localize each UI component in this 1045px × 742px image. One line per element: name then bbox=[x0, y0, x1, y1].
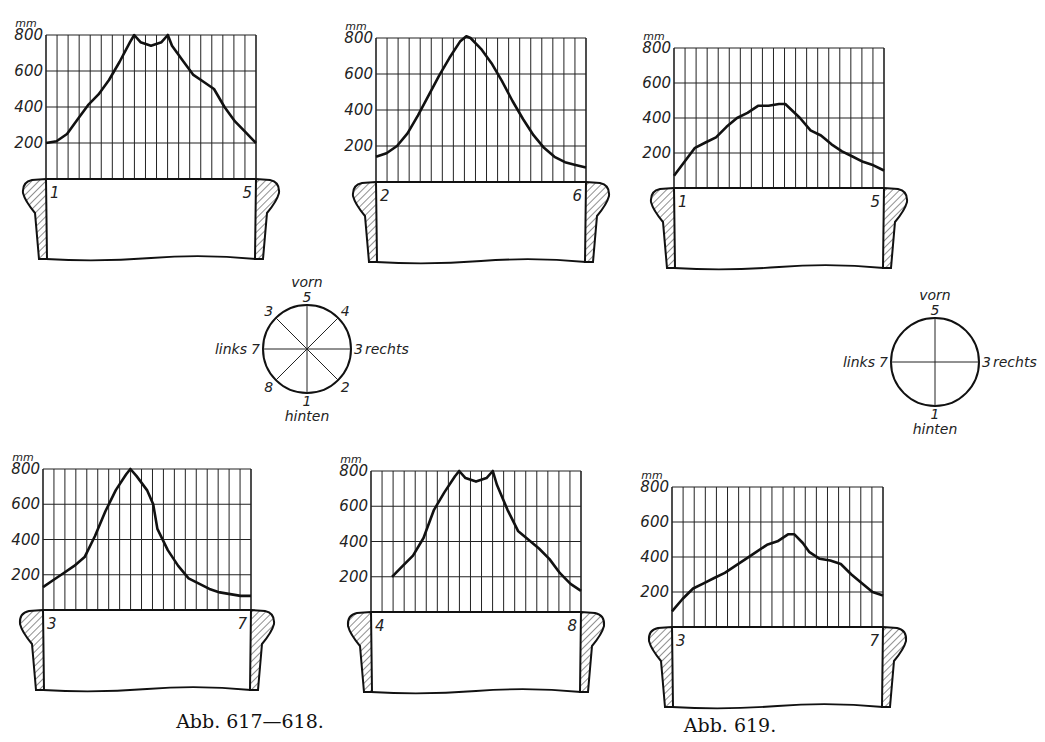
y-tick-label: 400 bbox=[11, 531, 40, 549]
point-number: 7 bbox=[251, 341, 260, 357]
charts-layer: 200400600800mm15200400600800mm2620040060… bbox=[11, 17, 907, 708]
orientation-diagram-1: 543rechts2187links3vornhinten bbox=[215, 274, 409, 424]
left-point-label: 3 bbox=[676, 632, 686, 650]
profile-line bbox=[46, 35, 256, 143]
y-tick-label: 200 bbox=[14, 134, 43, 152]
point-number: 5 bbox=[303, 289, 312, 305]
right-point-label: 5 bbox=[870, 193, 880, 211]
right-label: rechts bbox=[993, 354, 1037, 370]
y-tick-label: 400 bbox=[14, 98, 43, 116]
unit-label: mm bbox=[15, 17, 36, 30]
y-tick-label: 600 bbox=[344, 65, 373, 83]
profile-line bbox=[43, 469, 251, 596]
right-rail-section bbox=[585, 182, 609, 262]
right-rail-section bbox=[255, 179, 279, 259]
y-tick-label: 600 bbox=[11, 495, 40, 513]
right-rail-section bbox=[250, 610, 274, 690]
right-point-label: 5 bbox=[242, 184, 252, 202]
rail-profile-chart-5: 200400600800mm48 bbox=[339, 453, 604, 693]
unit-label: mm bbox=[340, 453, 361, 466]
y-tick-label: 200 bbox=[642, 144, 671, 162]
point-number: 2 bbox=[341, 379, 350, 395]
back-label: hinten bbox=[913, 421, 958, 437]
point-number: 4 bbox=[341, 303, 350, 319]
break-line bbox=[376, 259, 586, 263]
right-label: rechts bbox=[365, 341, 409, 357]
point-number: 3 bbox=[982, 354, 991, 370]
left-point-label: 4 bbox=[375, 617, 385, 635]
back-label: hinten bbox=[285, 408, 330, 424]
left-label: links bbox=[215, 341, 247, 357]
right-point-label: 7 bbox=[237, 615, 247, 633]
break-line bbox=[672, 704, 883, 708]
figure-caption: Abb. 619. bbox=[683, 714, 776, 736]
figure-canvas: 200400600800mm15200400600800mm2620040060… bbox=[0, 0, 1045, 742]
y-tick-label: 200 bbox=[344, 137, 373, 155]
front-label: vorn bbox=[291, 274, 322, 290]
left-rail-section bbox=[23, 179, 47, 259]
y-tick-label: 400 bbox=[339, 533, 368, 551]
profile-line bbox=[392, 471, 581, 591]
front-label: vorn bbox=[919, 287, 950, 303]
profile-line bbox=[376, 36, 586, 167]
y-tick-label: 200 bbox=[640, 583, 669, 601]
left-rail-section bbox=[651, 188, 675, 268]
point-number: 5 bbox=[931, 302, 940, 318]
left-rail-section bbox=[20, 610, 44, 690]
rail-profile-chart-3: 200400600800mm15 bbox=[642, 30, 907, 269]
point-number: 1 bbox=[931, 406, 940, 422]
left-point-label: 1 bbox=[678, 193, 688, 211]
y-tick-label: 600 bbox=[642, 74, 671, 92]
left-point-label: 3 bbox=[47, 615, 57, 633]
unit-label: mm bbox=[345, 20, 366, 33]
rail-profile-chart-1: 200400600800mm15 bbox=[14, 17, 279, 260]
break-line bbox=[371, 689, 581, 693]
point-number: 8 bbox=[264, 379, 273, 395]
break-line bbox=[674, 265, 884, 269]
y-tick-label: 400 bbox=[640, 548, 669, 566]
break-line bbox=[43, 687, 251, 691]
point-number: 7 bbox=[879, 354, 888, 370]
point-number: 1 bbox=[303, 393, 312, 409]
left-label: links bbox=[843, 354, 875, 370]
point-number: 3 bbox=[354, 341, 363, 357]
y-tick-label: 200 bbox=[339, 568, 368, 586]
point-number: 3 bbox=[264, 303, 273, 319]
right-point-label: 6 bbox=[572, 187, 582, 205]
figure-caption: Abb. 617—618. bbox=[175, 710, 324, 732]
y-tick-label: 600 bbox=[14, 62, 43, 80]
left-rail-section bbox=[649, 627, 673, 707]
right-point-label: 7 bbox=[869, 632, 879, 650]
right-rail-section bbox=[883, 188, 907, 268]
right-rail-section bbox=[580, 612, 604, 692]
rail-profile-chart-6: 200400600800mm37 bbox=[640, 469, 906, 708]
rail-profile-chart-2: 200400600800mm26 bbox=[344, 20, 609, 263]
rail-profile-chart-4: 200400600800mm37 bbox=[11, 451, 274, 691]
y-tick-label: 600 bbox=[339, 497, 368, 515]
y-tick-label: 200 bbox=[11, 566, 40, 584]
unit-label: mm bbox=[641, 469, 662, 482]
y-tick-label: 400 bbox=[344, 101, 373, 119]
profile-line bbox=[674, 104, 884, 176]
y-tick-label: 600 bbox=[640, 513, 669, 531]
break-line bbox=[46, 256, 256, 260]
right-point-label: 8 bbox=[567, 617, 577, 635]
left-point-label: 2 bbox=[380, 187, 390, 205]
unit-label: mm bbox=[12, 451, 33, 464]
profile-line bbox=[672, 534, 883, 611]
y-tick-label: 400 bbox=[642, 109, 671, 127]
left-rail-section bbox=[348, 612, 372, 692]
left-point-label: 1 bbox=[50, 184, 60, 202]
orientation-diagram-2: 53rechts17linksvornhinten bbox=[843, 287, 1037, 437]
right-rail-section bbox=[882, 627, 906, 707]
orientation-diagrams: 543rechts2187links3vornhinten53rechts17l… bbox=[215, 274, 1037, 437]
figure-captions: Abb. 617—618.Abb. 619. bbox=[175, 710, 776, 736]
unit-label: mm bbox=[643, 30, 664, 43]
left-rail-section bbox=[353, 182, 377, 262]
